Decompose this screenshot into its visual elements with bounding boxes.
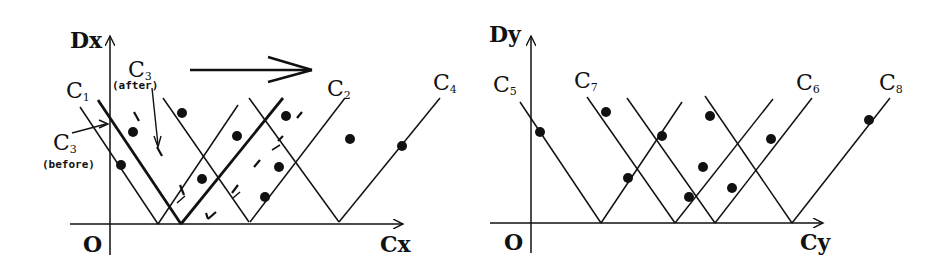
- cy-axis-label: Cy: [800, 229, 832, 255]
- diagram-canvas: Dx Cx O C1 C3 (after) C3 (before) C2 C4 …: [0, 0, 943, 274]
- c7-label: C7: [574, 68, 598, 94]
- data-point: [657, 131, 667, 141]
- data-point: [705, 111, 715, 121]
- data-point: [698, 162, 708, 172]
- c1-label: C1: [66, 78, 90, 104]
- data-point: [345, 134, 355, 144]
- data-point: [274, 162, 284, 172]
- data-point: [864, 115, 874, 125]
- curve-desc-4: [249, 98, 339, 222]
- c8-label: C8: [879, 70, 903, 96]
- left-panel: [70, 36, 440, 255]
- data-point: [727, 183, 737, 193]
- origin-label-right: O: [504, 229, 523, 255]
- c3-after-note: (after): [112, 79, 158, 92]
- c3-before-note: (before): [42, 158, 95, 171]
- data-point: [601, 107, 611, 117]
- curve-c6-rise: [715, 98, 812, 223]
- data-point: [116, 160, 126, 170]
- data-point: [397, 141, 407, 151]
- c3-before-label: C3: [53, 130, 77, 156]
- curve-rise-1: [158, 105, 238, 224]
- data-point: [197, 174, 207, 184]
- c3-before-pointer: [72, 124, 106, 133]
- data-point: [128, 127, 138, 137]
- curve-rise-1: [601, 102, 682, 223]
- c4-label: C4: [433, 70, 457, 96]
- right-arrow-icon: [190, 57, 312, 82]
- data-point: [232, 131, 242, 141]
- curve-c5-desc: [520, 102, 601, 223]
- right-panel: [490, 36, 890, 253]
- c3-after-pointer: [152, 88, 158, 145]
- data-point: [260, 192, 270, 202]
- curve-c7-desc: [587, 97, 675, 223]
- data-point: [535, 127, 545, 137]
- c5-label: C5: [493, 72, 517, 98]
- curve-desc-3: [627, 98, 715, 223]
- data-point: [177, 108, 187, 118]
- curve-rise-2: [675, 99, 773, 223]
- data-point: [623, 173, 633, 183]
- curve-c8-rise: [792, 98, 890, 223]
- curve-desc-3: [163, 98, 249, 222]
- data-point: [766, 134, 776, 144]
- curve-rise-thick: [181, 98, 283, 224]
- c6-label: C6: [796, 70, 820, 96]
- left-data-points: [116, 108, 407, 202]
- curve-c4-rise: [339, 98, 440, 222]
- dy-axis-label: Dy: [489, 21, 522, 47]
- data-point: [281, 111, 291, 121]
- cx-axis-label: Cx: [380, 231, 412, 257]
- data-point: [684, 192, 694, 202]
- right-data-points: [535, 107, 874, 202]
- curve-desc-4: [705, 96, 792, 223]
- dx-axis-label: Dx: [70, 27, 103, 53]
- origin-label-left: O: [83, 231, 102, 257]
- c2-label: C2: [327, 76, 351, 102]
